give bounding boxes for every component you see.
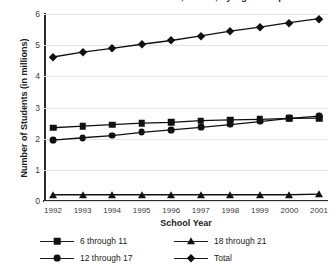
legend-label: 18 through 21 [214, 236, 266, 246]
legend-marker-square-icon [40, 235, 74, 247]
y-tick-label: 6 [14, 9, 40, 19]
series-line [53, 194, 319, 195]
data-point-marker [285, 191, 293, 198]
legend-item[interactable]: 18 through 21 [174, 234, 266, 248]
data-point-marker [168, 119, 175, 126]
x-tick-label: 2001 [302, 206, 332, 215]
series-line [53, 116, 319, 140]
legend-label: 6 through 11 [80, 236, 127, 246]
data-point-marker [50, 137, 57, 144]
y-tick-label: 4 [14, 71, 40, 81]
chart-legend: 6 through 1118 through 2112 through 17To… [40, 234, 308, 268]
gridline [44, 201, 328, 202]
legend-item[interactable]: 12 through 17 [40, 251, 132, 265]
series-line [53, 19, 319, 57]
data-point-marker [286, 115, 293, 122]
plot-area [44, 14, 328, 201]
legend-marker-circle-icon [40, 252, 74, 264]
data-point-marker [256, 118, 263, 125]
data-point-marker [256, 191, 264, 198]
legend-label: 12 through 17 [80, 253, 132, 263]
data-point-marker [198, 117, 205, 124]
y-tick-label: 0 [14, 196, 40, 206]
data-point-marker [79, 134, 86, 141]
data-point-marker [79, 191, 87, 198]
chart-title: Students Served Under IDEA, Part B, by A… [0, 0, 332, 3]
data-point-marker [138, 191, 146, 198]
data-point-marker [79, 123, 86, 130]
legend-marker-triangle-icon [174, 235, 208, 247]
data-point-marker [167, 191, 175, 198]
data-point-marker [168, 127, 175, 134]
data-point-marker [316, 113, 323, 120]
data-point-marker [49, 191, 57, 198]
data-point-marker [226, 191, 234, 198]
y-axis-tick-labels: 0123456 [8, 14, 40, 201]
chart-figure: Students Served Under IDEA, Part B, by A… [0, 0, 332, 273]
data-point-marker [50, 125, 57, 132]
legend-marker-diamond-icon [174, 252, 208, 264]
y-tick-label: 5 [14, 40, 40, 50]
x-axis-title: School Year [44, 218, 328, 228]
y-tick-label: 1 [14, 165, 40, 175]
y-tick-label: 3 [14, 103, 40, 113]
y-tick-label: 2 [14, 134, 40, 144]
data-point-marker [109, 132, 116, 139]
series-line-paths [44, 14, 328, 201]
data-point-marker [315, 190, 323, 197]
data-point-marker [138, 129, 145, 136]
data-point-marker [227, 121, 234, 128]
data-point-marker [138, 120, 145, 127]
legend-label: Total [214, 253, 232, 263]
data-point-marker [109, 121, 116, 128]
legend-item[interactable]: 6 through 11 [40, 234, 127, 248]
legend-item[interactable]: Total [174, 251, 232, 265]
data-point-marker [108, 191, 116, 198]
data-point-marker [197, 191, 205, 198]
data-point-marker [197, 124, 204, 131]
